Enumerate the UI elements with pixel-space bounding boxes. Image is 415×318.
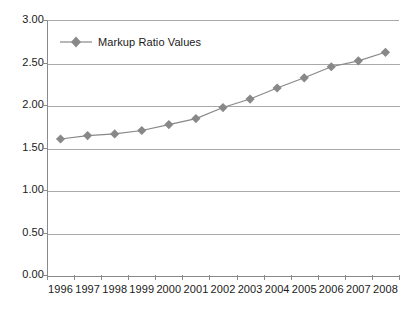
data-point-marker bbox=[381, 48, 390, 57]
x-axis-tick bbox=[318, 275, 319, 280]
x-axis-tick bbox=[101, 275, 102, 280]
data-point-marker bbox=[300, 73, 309, 82]
data-point-marker bbox=[245, 94, 254, 103]
series-line bbox=[61, 52, 386, 139]
legend-label: Markup Ratio Values bbox=[98, 36, 201, 48]
x-axis-tick bbox=[128, 275, 129, 280]
series-markup-ratio-values bbox=[47, 20, 399, 275]
data-point-marker bbox=[327, 62, 336, 71]
x-axis-tick bbox=[291, 275, 292, 280]
data-point-marker bbox=[110, 129, 119, 138]
data-point-marker bbox=[191, 114, 200, 123]
y-axis-tick-label: 0.50 bbox=[2, 227, 44, 238]
x-axis-tick bbox=[209, 275, 210, 280]
x-axis-tick bbox=[47, 275, 48, 280]
x-axis: 1996199719981999200020012002200320042005… bbox=[47, 283, 399, 299]
x-axis-tick bbox=[399, 275, 400, 280]
x-axis-tick bbox=[237, 275, 238, 280]
y-axis-tick-label: 1.00 bbox=[2, 184, 44, 195]
x-axis-tick bbox=[264, 275, 265, 280]
data-point-marker bbox=[273, 83, 282, 92]
legend-marker-diamond-icon bbox=[60, 35, 92, 49]
y-axis: 3.002.502.001.501.000.500.00 bbox=[0, 0, 44, 318]
x-axis-tick-label: 2008 bbox=[365, 283, 405, 296]
y-axis-tick-label: 0.00 bbox=[2, 269, 44, 280]
x-axis-tick bbox=[345, 275, 346, 280]
y-axis-tick-label: 3.00 bbox=[2, 14, 44, 25]
data-point-marker bbox=[56, 134, 65, 143]
x-axis-tick bbox=[155, 275, 156, 280]
x-axis-tick bbox=[74, 275, 75, 280]
data-point-marker bbox=[354, 56, 363, 65]
x-axis-ticks bbox=[47, 275, 399, 281]
legend: Markup Ratio Values bbox=[60, 34, 201, 50]
y-axis-tick-label: 2.50 bbox=[2, 57, 44, 68]
x-axis-tick bbox=[182, 275, 183, 280]
data-point-marker bbox=[164, 120, 173, 129]
y-axis-tick-label: 1.50 bbox=[2, 142, 44, 153]
data-point-marker bbox=[137, 126, 146, 135]
x-axis-tick bbox=[372, 275, 373, 280]
y-axis-tick-label: 2.00 bbox=[2, 99, 44, 110]
line-chart: 3.002.502.001.501.000.500.00 19961997199… bbox=[0, 0, 415, 318]
data-point-marker bbox=[218, 103, 227, 112]
data-point-marker bbox=[83, 131, 92, 140]
